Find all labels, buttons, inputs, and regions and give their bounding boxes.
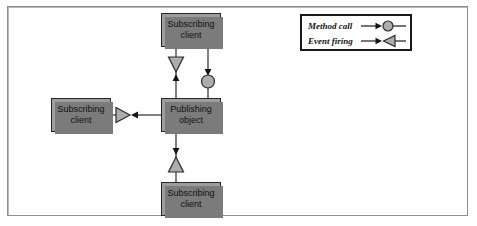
node-label-line2: client (180, 30, 201, 41)
node-label-line1: Subscribing (57, 104, 104, 115)
subscribing-client-top[interactable]: Subscribing client (161, 13, 221, 47)
node-label-line2: client (70, 115, 91, 126)
legend-label-method-call: Method call (308, 21, 360, 31)
node-label-line2: object (179, 115, 203, 126)
connector-event-firing-bottom (169, 132, 184, 182)
node-label-line1: Publishing (170, 104, 212, 115)
connector-event-firing-left (111, 108, 161, 123)
figure-canvas: Subscribing client Subscribing client Pu… (0, 0, 477, 226)
legend-label-event-firing: Event firing (308, 36, 360, 46)
publishing-object[interactable]: Publishing object (161, 98, 221, 132)
legend-marker-circle-icon (360, 19, 408, 33)
legend-marker-triangle-icon (360, 34, 408, 48)
connector-method-call-top (202, 47, 215, 98)
legend-row-event-firing: Event firing (308, 34, 408, 48)
subscribing-client-left[interactable]: Subscribing client (51, 98, 111, 132)
node-label-line2: client (180, 199, 201, 210)
legend-box: Method call Event firing (300, 14, 412, 51)
connector-event-firing-top (169, 47, 184, 98)
node-label-line1: Subscribing (167, 19, 214, 30)
legend-row-method-call: Method call (308, 19, 408, 33)
subscribing-client-bottom[interactable]: Subscribing client (161, 182, 221, 216)
node-label-line1: Subscribing (167, 188, 214, 199)
